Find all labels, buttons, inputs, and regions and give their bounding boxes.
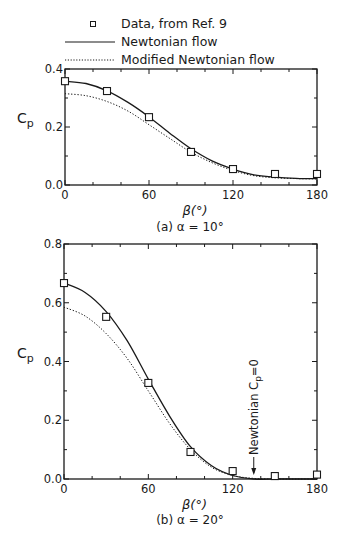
chart-panel-b: 0601201800.00.20.40.60.8β(°)CpNewtonian … [17, 237, 328, 512]
data-marker [188, 148, 195, 155]
y-tick-label: 0.4 [45, 62, 63, 76]
x-tick-label: 60 [142, 188, 157, 202]
y-tick-label: 0.2 [44, 413, 62, 427]
y-axis-label: Cp [17, 345, 34, 365]
y-axis-label: Cp [17, 110, 34, 130]
arrowhead-icon [251, 468, 256, 475]
x-axis-label: β(°) [182, 203, 208, 218]
data-marker [271, 473, 278, 480]
legend-label-data: Data, from Ref. 9 [121, 16, 227, 31]
data-marker [314, 170, 321, 177]
data-marker [314, 471, 321, 478]
y-tick-label: 0.6 [44, 296, 62, 310]
caption-a: (a) α = 10° [156, 220, 223, 234]
plot-frame [64, 244, 317, 479]
caption-b: (b) α = 20° [156, 513, 224, 527]
y-tick-label: 0.2 [45, 120, 63, 134]
figure: Data, from Ref. 9 Newtonian flow Modifie… [0, 0, 341, 541]
newtonian-curve [65, 81, 317, 178]
legend-square-icon [91, 22, 96, 27]
x-tick-label: 180 [306, 482, 328, 496]
data-marker [146, 114, 153, 121]
x-tick-label: 120 [222, 482, 244, 496]
y-tick-label: 0.8 [44, 237, 62, 251]
y-tick-label: 0.0 [45, 178, 63, 192]
data-marker [145, 379, 152, 386]
data-marker [187, 448, 194, 455]
chart-panel-a: 0601201800.00.20.4β(°)Cp [17, 62, 328, 218]
x-tick-label: 120 [222, 188, 244, 202]
y-tick-label: 0.4 [44, 355, 62, 369]
data-marker [230, 166, 237, 173]
data-marker [61, 280, 68, 287]
data-marker [104, 88, 111, 95]
data-marker [272, 170, 279, 177]
annotation-newtonian-cp-zero: Newtonian Cp=0 [247, 359, 263, 455]
data-marker [62, 78, 69, 85]
legend-label-newtonian: Newtonian flow [121, 34, 218, 49]
plot-frame [65, 69, 317, 185]
data-marker [103, 313, 110, 320]
x-tick-label: 180 [306, 188, 328, 202]
y-tick-label: 0.0 [44, 472, 62, 486]
legend-label-modified: Modified Newtonian flow [121, 52, 275, 67]
data-marker [229, 468, 236, 475]
x-axis-label: β(°) [181, 497, 207, 512]
x-tick-label: 60 [141, 482, 156, 496]
legend: Data, from Ref. 9 Newtonian flow Modifie… [65, 16, 275, 67]
modified-newtonian-curve [65, 94, 317, 179]
